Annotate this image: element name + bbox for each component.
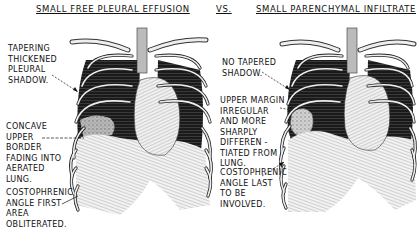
label-costophrenic-right: COSTOPHRENIC ANGLE LAST TO BE INVOLVED. xyxy=(220,168,287,210)
label-tapering: TAPERING THICKENED PLEURAL SHADOW. xyxy=(8,44,57,86)
label-upper-margin: UPPER MARGIN IRREGULAR AND MORE SHARPLY … xyxy=(220,96,285,170)
left-chest-figure xyxy=(42,28,211,215)
label-costophrenic-left: COSTOPHRENIC ANGLE FIRST AREA OBLITERATE… xyxy=(6,188,73,230)
label-concave: CONCAVE UPPER BORDER FADING INTO AERATED… xyxy=(6,122,61,185)
label-no-tapered: NO TAPERED SHADOW. xyxy=(222,58,276,79)
